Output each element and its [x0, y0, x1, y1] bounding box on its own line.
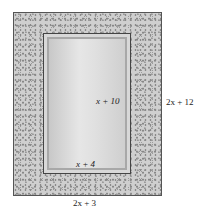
outer-height-label: 2x + 12: [166, 97, 194, 107]
outer-width-label: 2x + 3: [73, 198, 96, 208]
inner-height-label: x + 10: [96, 96, 120, 106]
inner-width-label: x + 4: [76, 159, 95, 169]
